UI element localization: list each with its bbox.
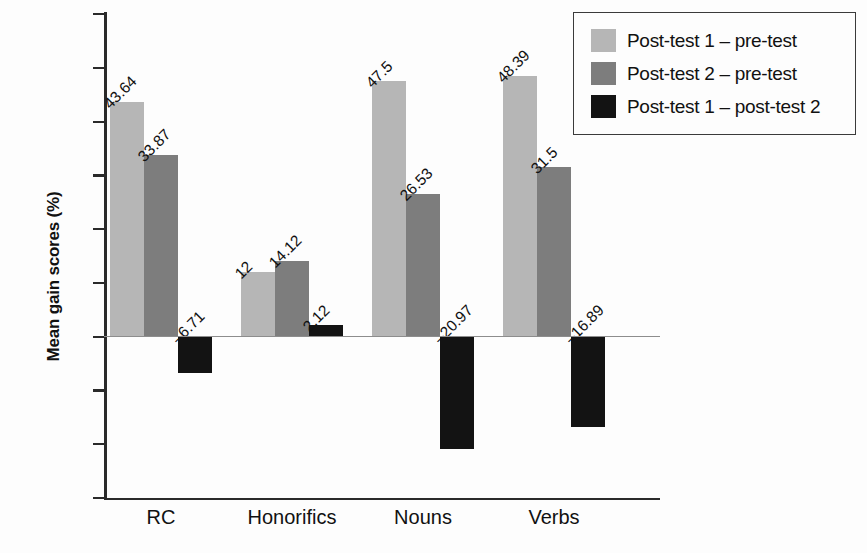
zero-reference-line <box>104 336 660 338</box>
legend-label: Post-test 2 – pre-test <box>627 63 797 85</box>
legend: Post-test 1 – pre-test Post-test 2 – pre… <box>573 12 856 135</box>
bar <box>372 81 406 336</box>
bar <box>406 194 440 337</box>
legend-item[interactable]: Post-test 1 – pre-test <box>591 24 855 57</box>
y-axis-tick <box>93 282 105 284</box>
bar <box>571 337 605 428</box>
legend-label: Post-test 1 – pre-test <box>627 30 797 52</box>
y-axis-tick <box>93 228 105 230</box>
y-axis-tick <box>93 13 105 15</box>
x-axis-category-label: Nouns <box>347 506 499 529</box>
y-axis-tick <box>93 443 105 445</box>
bar <box>241 272 275 337</box>
bar <box>440 337 474 450</box>
x-axis-category-label: Honorifics <box>216 506 368 529</box>
legend-swatch-post1-post2 <box>591 95 616 118</box>
y-axis-tick <box>93 121 105 123</box>
y-axis-line <box>104 12 107 500</box>
y-axis-tick <box>93 389 105 391</box>
legend-item[interactable]: Post-test 1 – post-test 2 <box>591 90 855 123</box>
chart-figure: Mean gain scores (%) 6050403020100–10–20… <box>0 0 867 553</box>
legend-swatch-post2-pre <box>591 62 616 85</box>
bar <box>144 155 178 337</box>
legend-swatch-post1-pre <box>591 29 616 52</box>
bar <box>537 167 571 336</box>
legend-label: Post-test 1 – post-test 2 <box>627 96 820 118</box>
bar <box>503 76 537 336</box>
x-axis-category-label: Verbs <box>478 506 630 529</box>
y-axis-title: Mean gain scores (%) <box>34 0 74 553</box>
x-axis-category-label: RC <box>85 506 237 529</box>
x-axis-line <box>104 498 660 501</box>
legend-item[interactable]: Post-test 2 – pre-test <box>591 57 855 90</box>
y-axis-tick <box>93 174 105 176</box>
bar <box>110 102 144 337</box>
y-axis-tick <box>93 67 105 69</box>
y-axis-tick <box>93 497 105 499</box>
